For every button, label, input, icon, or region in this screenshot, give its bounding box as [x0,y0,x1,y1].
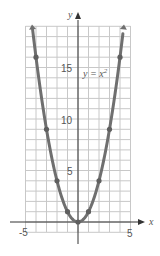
x-tick-minus-5: -5 [19,227,28,238]
y-axis-label: y [67,9,73,20]
y-tick-15: 15 [61,63,73,74]
parabola-chart: y x -5 5 5 10 15 y = x2 [0,0,160,256]
x-axis-label: x [148,216,154,227]
y-tick-5: 5 [67,166,73,177]
equation-label: y = x2 [82,67,108,79]
x-tick-5: 5 [127,228,133,239]
y-tick-10: 10 [61,115,73,126]
